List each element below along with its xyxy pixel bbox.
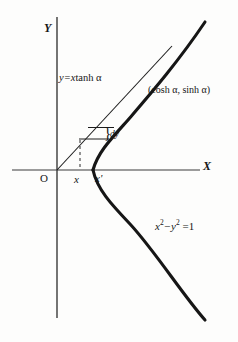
hyperbola-figure: Y X O x x' y=xtanh α (cosh α, sinh α) } …	[0, 0, 238, 342]
equation-result: =1	[180, 220, 194, 232]
hyperbola-lower-branch	[93, 170, 205, 320]
point-marker-icon	[144, 79, 148, 83]
x-prime-label: x'	[95, 173, 102, 184]
differential-dy-label: dy	[110, 130, 119, 140]
hyperbola-upper-branch	[93, 22, 205, 170]
tangent-equation-lhs: y=x	[59, 72, 75, 83]
x-axis-label: X	[203, 160, 211, 172]
y-axis-label: Y	[44, 22, 51, 34]
tangent-line	[57, 46, 172, 170]
equation-minus-y: −y	[164, 220, 176, 232]
curve-equation-label: x2−y2 =1	[155, 219, 194, 232]
tangent-equation-rhs: tanh α	[75, 72, 101, 83]
x-foot-label: x	[74, 174, 79, 185]
point-coordinate-label: (cosh α, sinh α)	[148, 85, 210, 95]
tangent-equation-label: y=xtanh α	[59, 73, 102, 84]
origin-label: O	[40, 173, 48, 184]
